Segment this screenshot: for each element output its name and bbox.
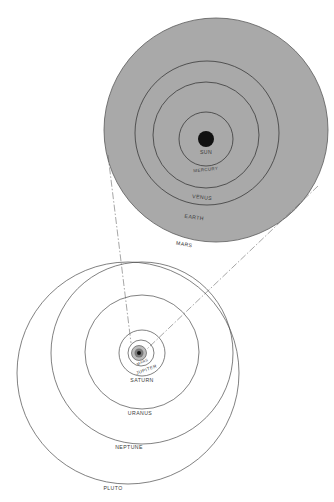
saturn-label: SATURN bbox=[130, 377, 153, 383]
mars-label: MARS bbox=[176, 240, 194, 249]
neptune-label: NEPTUNE bbox=[115, 444, 143, 450]
sun-icon bbox=[198, 131, 214, 147]
sun-dot-icon bbox=[137, 351, 141, 355]
mars-orbit-disc bbox=[104, 18, 328, 242]
uranus-label: URANUS bbox=[128, 410, 152, 416]
inner-solar-system: SUN MERCURY VENUS EARTH MARS bbox=[104, 18, 328, 248]
pluto-orbit bbox=[17, 262, 239, 484]
sun-label: SUN bbox=[200, 149, 212, 155]
outer-solar-system: MARS JUPITER SATURN URANUS NEPTUNE PLUTO bbox=[17, 262, 239, 491]
pluto-label: PLUTO bbox=[103, 485, 122, 491]
solar-system-diagram: SUN MERCURY VENUS EARTH MARS MARS JUPITE… bbox=[0, 0, 334, 502]
